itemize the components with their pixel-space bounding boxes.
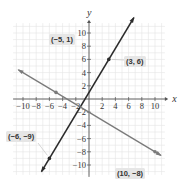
data-point: [54, 91, 58, 95]
y-tick-label: −10: [73, 160, 86, 170]
x-axis-title: x: [171, 93, 177, 104]
data-point: [107, 58, 111, 62]
y-axis-title: y: [86, 7, 92, 18]
x-tick-label: −6: [45, 101, 54, 111]
x-tick-label: 6: [126, 101, 130, 111]
data-lines: [18, 17, 162, 173]
x-tick-label: −8: [32, 101, 41, 111]
x-tick-label: −10: [16, 101, 29, 111]
point-label: (−5, 1): [51, 35, 73, 44]
axes: xy: [13, 7, 177, 177]
data-point: [48, 157, 52, 161]
point-label: (−6, −9): [8, 132, 35, 141]
x-tick-label: 10: [151, 101, 160, 111]
y-tick-label: −4: [77, 120, 87, 130]
x-tick-label: −4: [58, 101, 68, 111]
y-axis-arrow-icon: [87, 20, 91, 23]
data-point: [153, 150, 157, 154]
y-tick-label: 2: [82, 81, 86, 91]
data-line: [18, 70, 161, 156]
line-arrow-icon: [130, 17, 135, 23]
x-tick-label: 8: [140, 101, 144, 111]
y-tick-label: 8: [82, 41, 86, 51]
y-tick-label: −8: [77, 147, 86, 157]
x-tick-label: 2: [100, 101, 104, 111]
x-axis-arrow-icon: [165, 97, 168, 101]
y-tick-label: 10: [78, 28, 87, 38]
x-tick-label: 4: [113, 101, 118, 111]
y-tick-label: 6: [82, 54, 86, 64]
y-tick-label: −6: [77, 134, 86, 144]
point-label: (10, −8): [117, 169, 144, 178]
point-label: (3, 6): [126, 57, 144, 66]
coordinate-plane-chart: xy −10−8−6−4−2246810108642−2−4−6−8−10 (3…: [0, 0, 184, 190]
